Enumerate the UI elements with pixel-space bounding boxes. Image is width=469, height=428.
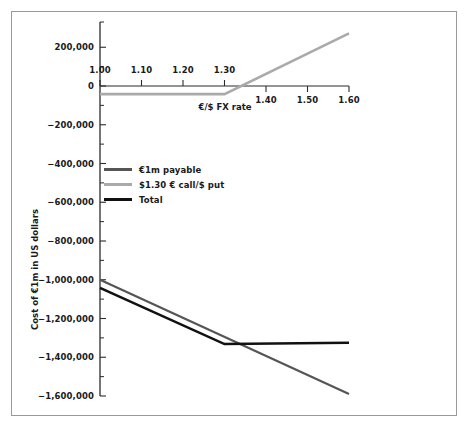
chart-legend: €1m payable$1.30 € call/$ putTotal [104, 162, 224, 207]
y-axis-title: Cost of €1m in US dollars [30, 209, 40, 330]
x-tick-label: 1.30 [214, 65, 235, 75]
series-lines [100, 33, 349, 394]
y-tick-label: −200,000 [18, 120, 94, 130]
x-tick-label: 1.50 [297, 95, 318, 105]
axis-lines [100, 22, 349, 396]
x-tick-label: 1.10 [131, 65, 152, 75]
legend-item: Total [104, 192, 224, 207]
y-tick-label: −1,600,000 [18, 391, 94, 401]
x-axis-title: €/$ FX rate [199, 102, 252, 112]
x-tick-label: 1.60 [338, 95, 359, 105]
y-tick-label: −400,000 [18, 159, 94, 169]
y-tick-label: −1,400,000 [18, 352, 94, 362]
legend-swatch-line-icon [104, 168, 132, 171]
legend-label: €1m payable [139, 165, 201, 175]
legend-label: Total [139, 195, 163, 205]
x-tick-label: 1.00 [89, 65, 110, 75]
legend-item: €1m payable [104, 162, 224, 177]
y-tick-label: 0 [18, 81, 94, 91]
legend-swatch-line-icon [104, 198, 132, 201]
series-line-1 [100, 280, 349, 394]
legend-swatch-line-icon [104, 183, 132, 186]
chart-figure: 200,0000−200,000−400,000−600,000−800,000… [0, 0, 469, 428]
y-tick-label: −600,000 [18, 197, 94, 207]
x-tick-label: 1.20 [172, 65, 193, 75]
legend-item: $1.30 € call/$ put [104, 177, 224, 192]
x-tick-label: 1.40 [255, 95, 276, 105]
legend-label: $1.30 € call/$ put [139, 180, 224, 190]
y-tick-label: 200,000 [18, 42, 94, 52]
